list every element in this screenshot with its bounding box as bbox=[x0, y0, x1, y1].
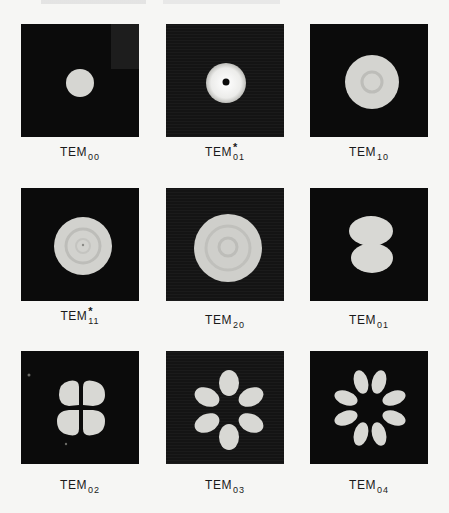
mode-subscript: 03 bbox=[233, 485, 245, 495]
mode-photo bbox=[21, 351, 139, 464]
mode-name: TEM bbox=[349, 145, 376, 159]
six-lobes-pattern bbox=[166, 351, 284, 464]
mode-photo bbox=[310, 188, 428, 301]
mode-photo bbox=[166, 351, 284, 464]
mode-subscript: 01 bbox=[377, 320, 389, 330]
figure-tem01: TEM01 bbox=[310, 188, 428, 301]
figure-tem01-star: TEM*01 bbox=[166, 24, 284, 137]
mode-label: TEM*11 bbox=[21, 309, 139, 323]
mode-photo bbox=[310, 351, 428, 464]
figure-tem00: TEM00 bbox=[21, 24, 139, 137]
large-disk-with-rings-pattern bbox=[166, 188, 284, 301]
asterisk-icon: * bbox=[88, 305, 93, 317]
mode-name: TEM bbox=[60, 309, 87, 323]
mode-subscript-wrap: *01 bbox=[233, 152, 245, 162]
mode-label: TEM20 bbox=[166, 313, 284, 327]
mode-name: TEM bbox=[60, 478, 87, 492]
mode-label: TEM00 bbox=[21, 145, 139, 159]
mode-photo bbox=[166, 24, 284, 137]
figure-tem02: TEM02 bbox=[21, 351, 139, 464]
disk-with-two-rings-pattern bbox=[21, 188, 139, 301]
figure-tem20: TEM20 bbox=[166, 188, 284, 301]
disk-with-inner-ring-pattern bbox=[310, 24, 428, 137]
asterisk-icon: * bbox=[233, 141, 238, 153]
mode-label: TEM03 bbox=[166, 478, 284, 492]
mode-subscript: 10 bbox=[377, 152, 389, 162]
two-lobes-vertical-pattern bbox=[310, 188, 428, 301]
mode-subscript: 02 bbox=[88, 485, 100, 495]
figure-tem03: TEM03 bbox=[166, 351, 284, 464]
figure-tem10: TEM10 bbox=[310, 24, 428, 137]
figure-tem04: TEM04 bbox=[310, 351, 428, 464]
cropped-running-header bbox=[20, 0, 440, 4]
figure-tem11-star: TEM*11 bbox=[21, 188, 139, 301]
ring-with-dark-center-pattern bbox=[166, 24, 284, 137]
mode-name: TEM bbox=[349, 478, 376, 492]
mode-label: TEM04 bbox=[310, 478, 428, 492]
mode-name: TEM bbox=[205, 313, 232, 327]
mode-name: TEM bbox=[205, 145, 232, 159]
mode-label: TEM01 bbox=[310, 313, 428, 327]
mode-subscript: 01 bbox=[233, 152, 245, 162]
mode-label: TEM02 bbox=[21, 478, 139, 492]
mode-name: TEM bbox=[205, 478, 232, 492]
mode-subscript: 20 bbox=[233, 320, 245, 330]
mode-label: TEM10 bbox=[310, 145, 428, 159]
mode-photo bbox=[21, 188, 139, 301]
eight-lobes-pattern bbox=[310, 351, 428, 464]
mode-photo bbox=[21, 24, 139, 137]
four-lobes-pattern bbox=[21, 351, 139, 464]
mode-name: TEM bbox=[349, 313, 376, 327]
mode-photo bbox=[166, 188, 284, 301]
mode-subscript: 04 bbox=[377, 485, 389, 495]
mode-name: TEM bbox=[60, 145, 87, 159]
mode-subscript: 00 bbox=[88, 152, 100, 162]
mode-photo bbox=[310, 24, 428, 137]
single-spot-pattern bbox=[21, 24, 139, 137]
mode-label: TEM*01 bbox=[166, 145, 284, 159]
mode-subscript: 11 bbox=[88, 316, 99, 326]
mode-subscript-wrap: *11 bbox=[88, 316, 99, 326]
